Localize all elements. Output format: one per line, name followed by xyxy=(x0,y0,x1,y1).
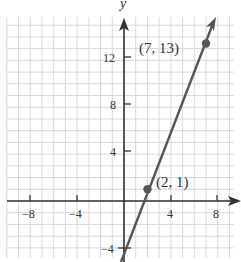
point-label-7-13: (7, 13) xyxy=(139,40,179,57)
x-tick-label-8: 8 xyxy=(213,207,219,221)
y-tick-label-4: 4 xyxy=(110,145,116,159)
y-axis xyxy=(119,18,129,262)
x-tick-label-m8: −8 xyxy=(22,207,35,221)
x-tick-label-m4: −4 xyxy=(69,207,82,221)
grid xyxy=(7,17,234,258)
point-label-2-1: (2, 1) xyxy=(156,174,189,191)
y-tick-label-m4: −4 xyxy=(101,242,114,256)
coordinate-plane: y −8 −4 4 8 12 8 4 −4 (2, 1) (7, 13) xyxy=(0,0,241,262)
point-7-13 xyxy=(202,39,210,47)
y-axis-label: y xyxy=(118,0,127,11)
x-tick-label-4: 4 xyxy=(167,207,173,221)
y-tick-label-8: 8 xyxy=(110,98,116,112)
point-2-1 xyxy=(143,185,151,193)
y-tick-label-12: 12 xyxy=(103,51,115,65)
